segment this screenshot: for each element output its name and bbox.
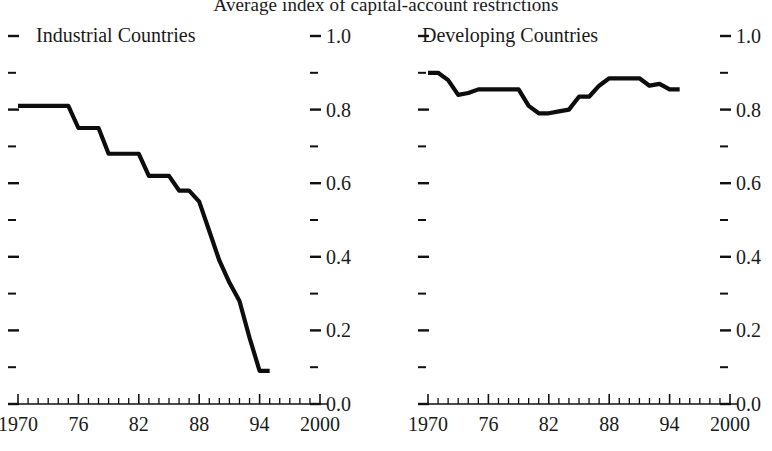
x-axis-label: 94 bbox=[660, 413, 680, 436]
x-axis-label: 76 bbox=[68, 413, 88, 436]
x-axis-label: 76 bbox=[478, 413, 498, 436]
plot-area-developing-countries: 0.00.20.40.60.81.01970768288942000 bbox=[400, 0, 772, 451]
x-axis-label: 88 bbox=[189, 413, 209, 436]
y-axis-label: 0.6 bbox=[736, 172, 761, 195]
y-axis-label: 0.6 bbox=[326, 172, 351, 195]
panel-industrial-countries: Industrial Countries 0.00.20.40.60.81.01… bbox=[0, 0, 390, 451]
x-axis-label: 2000 bbox=[710, 413, 750, 436]
chart-svg bbox=[400, 0, 772, 451]
x-axis-label: 94 bbox=[250, 413, 270, 436]
y-axis-label: 0.8 bbox=[326, 98, 351, 121]
chart-svg bbox=[0, 0, 390, 451]
y-axis-label: 0.2 bbox=[326, 319, 351, 342]
y-axis-label: 0.2 bbox=[736, 319, 761, 342]
data-series-line bbox=[18, 106, 270, 371]
x-axis-label: 1970 bbox=[408, 413, 448, 436]
y-axis-label: 0.8 bbox=[736, 98, 761, 121]
y-axis-label: 0.4 bbox=[326, 245, 351, 268]
y-axis-label: 1.0 bbox=[736, 25, 761, 48]
x-axis-label: 82 bbox=[129, 413, 149, 436]
plot-area-industrial-countries: 0.00.20.40.60.81.01970768288942000 bbox=[0, 0, 390, 451]
figure-chart-capital-account-restrictions: Average index of capital-account restric… bbox=[0, 0, 772, 451]
y-axis-label: 1.0 bbox=[326, 25, 351, 48]
y-axis-label: 0.4 bbox=[736, 245, 761, 268]
x-axis-label: 82 bbox=[539, 413, 559, 436]
x-axis-label: 88 bbox=[599, 413, 619, 436]
x-axis-label: 1970 bbox=[0, 413, 38, 436]
x-axis-label: 2000 bbox=[300, 413, 340, 436]
panel-developing-countries: Developing Countries 0.00.20.40.60.81.01… bbox=[400, 0, 772, 451]
data-series-line bbox=[428, 73, 680, 113]
